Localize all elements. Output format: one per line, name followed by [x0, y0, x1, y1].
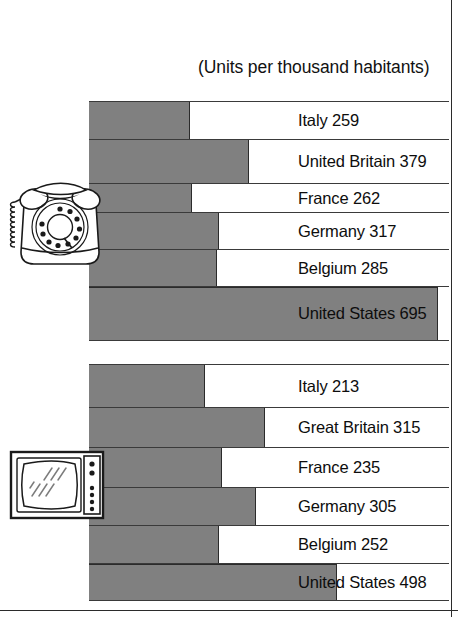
- row-label-telephone-italy: Italy 259: [298, 111, 359, 130]
- bar-television-italy: [89, 365, 205, 407]
- row-label-television-united-states: United States 498: [298, 572, 427, 591]
- row-label-telephone-united-states: United States 695: [298, 304, 427, 323]
- row-label-telephone-belgium: Belgium 285: [298, 258, 388, 277]
- table-row: United States 498: [0, 563, 458, 600]
- page-right-border: [451, 0, 452, 617]
- bar-television-belgium: [89, 526, 219, 563]
- chart-baseline: [89, 600, 449, 601]
- bar-television-germany: [89, 488, 256, 525]
- row-label-television-great-britain: Great Britain 315: [298, 418, 420, 437]
- table-row: Italy 213: [0, 364, 458, 407]
- infographic-page: (Units per thousand habitants) Italy 259…: [0, 0, 458, 617]
- row-label-television-italy: Italy 213: [298, 376, 359, 395]
- chart-baseline: [89, 340, 449, 341]
- row-label-telephone-united-britain: United Britain 379: [298, 152, 426, 171]
- bar-television-great-britain: [89, 408, 265, 447]
- bar-telephone-united-britain: [89, 140, 249, 183]
- units-subtitle: (Units per thousand habitants): [198, 57, 429, 78]
- row-label-television-germany: Germany 305: [298, 497, 396, 516]
- table-row: Italy 259: [0, 101, 458, 139]
- row-label-television-france: France 235: [298, 458, 380, 477]
- bar-television-france: [89, 448, 222, 487]
- bar-telephone-italy: [89, 102, 190, 139]
- table-row: Belgium 252: [0, 525, 458, 563]
- row-label-telephone-germany: Germany 317: [298, 221, 396, 240]
- page-bottom-border: [0, 610, 458, 611]
- table-row: United States 695: [0, 286, 458, 340]
- table-row: Great Britain 315: [0, 407, 458, 447]
- row-label-television-belgium: Belgium 252: [298, 535, 388, 554]
- row-label-telephone-france: France 262: [298, 188, 380, 207]
- television-icon: [8, 448, 108, 530]
- rotary-telephone-icon: [6, 168, 110, 280]
